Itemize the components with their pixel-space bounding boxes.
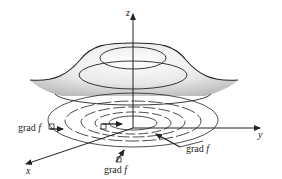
gradient-diagram: z y x grad f grad f grad f: [0, 0, 282, 179]
y-axis-label: y: [258, 130, 262, 140]
surface: [30, 43, 238, 105]
z-axis-label: z: [126, 8, 130, 18]
diagram-canvas: [0, 0, 282, 179]
grad-label-left: grad f: [18, 123, 41, 133]
x-axis-label: x: [26, 166, 30, 176]
grad-label-bottom: grad f: [104, 165, 127, 175]
grad-label-right: grad f: [186, 144, 209, 154]
